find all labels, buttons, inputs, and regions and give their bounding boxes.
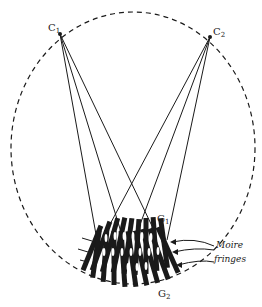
label-c2: C2 (213, 26, 225, 39)
label-g2: G2 (158, 288, 170, 301)
moire-diagram: C1 C2 G1 G2 Moire fringes (0, 0, 262, 307)
label-moire: Moire (215, 240, 243, 250)
label-c1: C1 (48, 22, 60, 35)
source-c2-point (208, 35, 212, 39)
label-fringes: fringes (213, 254, 246, 264)
rays-from-c2 (108, 37, 210, 240)
moire-arrows (172, 240, 214, 265)
rays-from-c1 (60, 34, 152, 240)
